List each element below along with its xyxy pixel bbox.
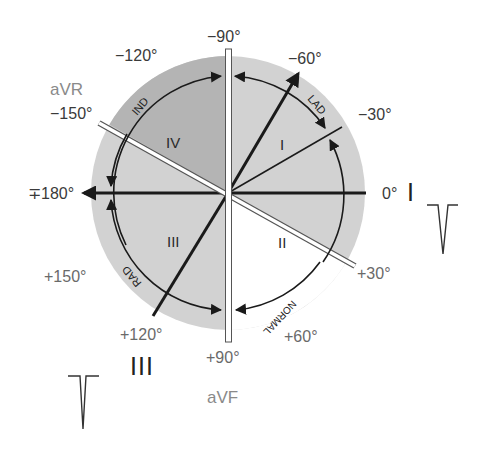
angle-label-0: 0° (382, 186, 397, 202)
angle-label-plus-150: +150° (44, 269, 86, 285)
angle-label-minus-150: −150° (50, 106, 92, 122)
angle-label-minus-90: −90° (207, 29, 241, 45)
axis-wheel: IND LAD RAD NORMAL (0, 0, 483, 449)
avf-axis-bar (226, 49, 232, 342)
quadrant-label-iv: IV (166, 135, 180, 150)
angle-label-plus-60: +60° (284, 329, 318, 345)
lead-label-iii: III (130, 354, 154, 379)
lead-iii-waveform (68, 376, 99, 429)
quadrant-label-i: I (280, 137, 284, 152)
angle-label-plus-90: +90° (206, 350, 240, 366)
angle-label-minus-60: −60° (288, 51, 322, 67)
lead-label-avf: aVF (207, 389, 238, 406)
lead-i-waveform (427, 205, 458, 254)
lead-label-avr: aVR (50, 81, 83, 98)
quadrant-label-ii: II (278, 235, 286, 250)
angle-label-plus-30: +30° (357, 266, 391, 282)
angle-label-minus-120: −120° (115, 48, 157, 64)
angle-label-plus-120: +120° (120, 327, 162, 343)
angle-label-minus-30: −30° (358, 107, 392, 123)
lead-label-i: I (407, 180, 415, 205)
hexaxial-diagram: IND LAD RAD NORMAL −90° −120° −60° aVR −… (0, 0, 483, 449)
quadrant-label-iii: III (167, 234, 180, 249)
angle-label-180: ∓180° (28, 186, 74, 202)
